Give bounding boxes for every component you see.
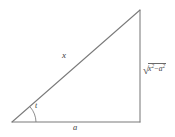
opposite-side-label: √x2−a2 xyxy=(143,63,166,76)
radicand-term-a-exponent: 2 xyxy=(163,62,166,68)
hypotenuse-label: x xyxy=(62,51,66,60)
hypotenuse-line xyxy=(12,10,140,122)
angle-label: t xyxy=(35,102,37,110)
right-triangle-figure: x t a √x2−a2 xyxy=(0,0,175,137)
base-label: a xyxy=(73,123,77,132)
radicand: x2−a2 xyxy=(148,63,167,73)
radical-expression: √x2−a2 xyxy=(143,63,166,76)
